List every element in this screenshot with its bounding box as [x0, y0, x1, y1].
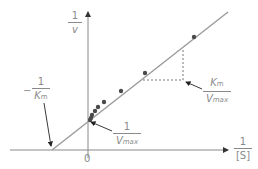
x-axis-label-numerator: 1 [239, 136, 247, 147]
x-intercept-numerator: 1 [37, 76, 45, 87]
x-intercept-label: 1 Km [32, 76, 50, 103]
y-intercept-denominator: Vmax [115, 135, 139, 148]
y-intercept-numerator: 1 [123, 121, 131, 132]
slope-numerator: Km [209, 77, 224, 90]
x-intercept-pointer [44, 103, 51, 146]
x-intercept-denominator: Km [33, 90, 48, 103]
y-axis-label-denominator: v [71, 24, 79, 35]
origin-label: 0 [84, 153, 90, 164]
fraction-bar [203, 91, 231, 92]
fraction-bar [68, 22, 82, 23]
x-axis-label: 1 [S] [234, 136, 252, 161]
x-intercept-sign: − [23, 85, 31, 96]
fraction-bar [113, 133, 141, 134]
x-axis-label-denominator: [S] [235, 150, 251, 161]
slope-denominator: Vmax [205, 93, 229, 106]
fraction-bar [32, 88, 50, 89]
y-intercept-label: 1 Vmax [113, 121, 141, 148]
lineweaver-burk-diagram: 1 v 1 [S] 0 − 1 Km 1 Vmax Km Vmax [0, 0, 258, 169]
y-axis-label: 1 v [68, 10, 82, 35]
fraction-bar [234, 148, 252, 149]
slope-pointer [186, 82, 202, 89]
y-axis-label-numerator: 1 [71, 10, 79, 21]
y-intercept-pointer [91, 122, 112, 131]
slope-label: Km Vmax [203, 77, 231, 106]
